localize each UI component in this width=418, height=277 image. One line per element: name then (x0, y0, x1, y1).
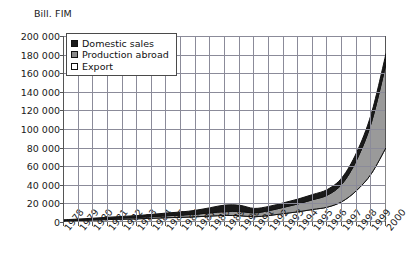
chart-legend: Domestic sales Production abroad Export (66, 33, 177, 76)
y-tick-label: 100 000 (2, 124, 60, 135)
x-gridline (312, 36, 313, 222)
y-tick-label: 140 000 (2, 86, 60, 97)
y-tick-label: 120 000 (2, 105, 60, 116)
y-tick-label: 180 000 (2, 49, 60, 60)
x-gridline (209, 36, 210, 222)
x-gridline (224, 36, 225, 222)
chart-container: Bill. FIM 020 00040 00060 00080 000100 0… (0, 0, 418, 277)
y-tick-mark (60, 185, 64, 186)
y-axis-tick-labels: 020 00040 00060 00080 000100 000120 0001… (0, 0, 60, 277)
y-tick-mark (60, 55, 64, 56)
legend-swatch-production-abroad (71, 51, 78, 58)
y-tick-label: 80 000 (2, 142, 60, 153)
legend-item-domestic-sales: Domestic sales (71, 38, 169, 49)
x-gridline (326, 36, 327, 222)
x-gridline (297, 36, 298, 222)
x-gridline (195, 36, 196, 222)
x-gridline (370, 36, 371, 222)
y-tick-mark (60, 148, 64, 149)
legend-label-export: Export (82, 61, 113, 72)
x-gridline (239, 36, 240, 222)
y-tick-mark (60, 73, 64, 74)
y-tick-mark (60, 203, 64, 204)
y-tick-mark (60, 36, 64, 37)
y-tick-mark (60, 129, 64, 130)
y-tick-label: 20 000 (2, 198, 60, 209)
y-tick-label: 0 (2, 217, 60, 228)
x-gridline (356, 36, 357, 222)
x-gridline (253, 36, 254, 222)
y-tick-mark (60, 92, 64, 93)
legend-swatch-export (71, 63, 78, 70)
x-gridline (341, 36, 342, 222)
x-gridline (268, 36, 269, 222)
y-tick-label: 40 000 (2, 179, 60, 190)
x-gridline (180, 36, 181, 222)
legend-swatch-domestic-sales (71, 40, 78, 47)
legend-label-domestic-sales: Domestic sales (82, 38, 154, 49)
y-tick-label: 160 000 (2, 68, 60, 79)
legend-item-export: Export (71, 61, 169, 72)
y-tick-mark (60, 110, 64, 111)
area-series-production-abroad (64, 64, 386, 221)
y-tick-label: 60 000 (2, 161, 60, 172)
legend-label-production-abroad: Production abroad (82, 49, 169, 60)
y-tick-label: 200 000 (2, 31, 60, 42)
legend-item-production-abroad: Production abroad (71, 49, 169, 60)
y-tick-mark (60, 166, 64, 167)
x-gridline (283, 36, 284, 222)
